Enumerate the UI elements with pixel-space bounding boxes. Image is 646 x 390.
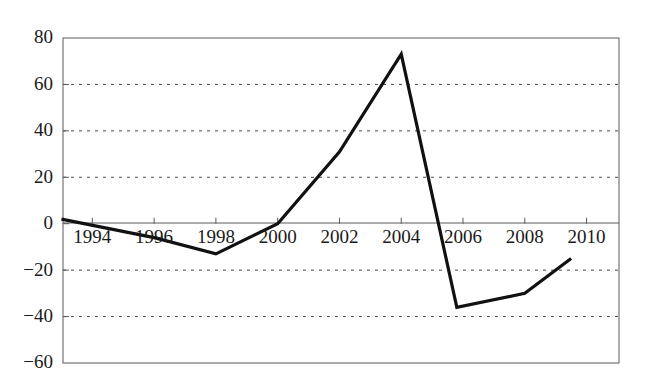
y-axis-label--60: −60 — [23, 351, 53, 372]
y-axis-label--20: −20 — [23, 259, 53, 280]
x-axis-label-2002: 2002 — [320, 226, 358, 247]
y-axis-label-40: 40 — [34, 119, 53, 140]
line-chart: 806040200−20−40−60 199419961998200020022… — [0, 0, 646, 390]
x-axis-label-1994: 1994 — [73, 226, 112, 247]
chart-background — [0, 0, 646, 390]
y-axis-label-80: 80 — [34, 26, 53, 47]
chart-container: 806040200−20−40−60 199419961998200020022… — [0, 0, 646, 390]
y-axis-label-20: 20 — [34, 166, 53, 187]
y-axis-label-0: 0 — [44, 212, 54, 233]
x-axis-label-2010: 2010 — [568, 226, 606, 247]
x-axis-label-2004: 2004 — [382, 226, 421, 247]
x-axis-label-2006: 2006 — [444, 226, 482, 247]
x-axis-tick-labels: 199419961998200020022004200620082010 — [73, 226, 605, 247]
y-axis-label--40: −40 — [23, 305, 53, 326]
x-axis-label-1996: 1996 — [135, 226, 173, 247]
x-axis-label-1998: 1998 — [197, 226, 235, 247]
x-axis-label-2000: 2000 — [259, 226, 297, 247]
x-axis-label-2008: 2008 — [506, 226, 544, 247]
y-axis-label-60: 60 — [34, 73, 53, 94]
